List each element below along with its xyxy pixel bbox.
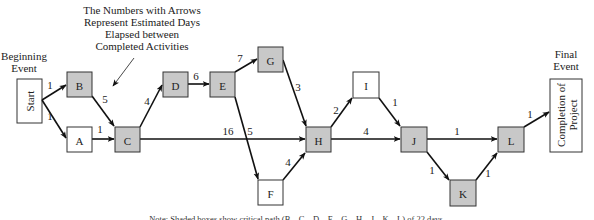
activity-label: F bbox=[267, 188, 273, 200]
start-label: Start bbox=[24, 91, 36, 112]
edge-days-label: 6 bbox=[193, 70, 199, 82]
activity-label: L bbox=[508, 135, 515, 147]
node-b: B bbox=[67, 72, 92, 97]
final-event: Final Event Completion of Project bbox=[550, 48, 582, 152]
annotation-line-3: Elapsed between bbox=[105, 28, 180, 40]
edge-b-to-c: 5 bbox=[92, 93, 114, 126]
activity-label: C bbox=[124, 135, 131, 147]
edge-start-to-a: 1 bbox=[42, 100, 66, 138]
edge-days-label: 1 bbox=[527, 108, 533, 120]
edge-days-label: 2 bbox=[333, 104, 339, 116]
activity-label: J bbox=[412, 135, 417, 147]
edge-c-to-h: 16 bbox=[140, 125, 305, 139]
critical-path-note: Note: Shaded boxes show critical path (B… bbox=[149, 214, 445, 220]
arrow-line bbox=[42, 100, 66, 138]
edge-days-label: 7 bbox=[237, 52, 243, 64]
edge-days-label: 3 bbox=[295, 81, 301, 93]
edge-c-to-d: 4 bbox=[140, 85, 162, 127]
edge-j-to-l: 1 bbox=[427, 125, 497, 139]
edge-f-to-h: 4 bbox=[283, 153, 305, 180]
node-c: C bbox=[115, 127, 140, 152]
edge-a-to-c: 1 bbox=[92, 123, 114, 139]
node-g: G bbox=[258, 47, 283, 72]
edge-h-to-j: 4 bbox=[331, 125, 400, 139]
activity-label: H bbox=[315, 135, 323, 147]
edge-days-label: 4 bbox=[363, 125, 369, 137]
arrow-line bbox=[235, 97, 258, 179]
annotation-line-2: Represent Estimated Days bbox=[84, 16, 200, 28]
edge-start-to-b: 1 bbox=[42, 79, 66, 100]
node-j: J bbox=[401, 127, 427, 152]
node-e: E bbox=[210, 72, 235, 97]
edge-e-to-f: 5 bbox=[235, 97, 258, 179]
edge-days-label: 1 bbox=[47, 110, 53, 122]
completion-label-2: Project bbox=[567, 99, 579, 130]
activity-label: B bbox=[76, 80, 83, 92]
activity-label: K bbox=[459, 188, 467, 200]
edge-days-label: 1 bbox=[429, 164, 435, 176]
node-d: D bbox=[163, 72, 188, 97]
edge-i-to-j: 1 bbox=[379, 96, 400, 126]
edge-days-label: 1 bbox=[485, 167, 491, 179]
activity-label: D bbox=[172, 80, 180, 92]
annotation-pointer-arrow bbox=[113, 58, 134, 86]
node-l: L bbox=[498, 127, 524, 152]
edge-g-to-h: 3 bbox=[283, 60, 306, 126]
edge-l-to-end: 1 bbox=[524, 108, 549, 127]
edge-k-to-l: 1 bbox=[476, 153, 497, 180]
activity-label: E bbox=[219, 80, 226, 92]
edge-d-to-e: 6 bbox=[188, 70, 209, 84]
annotation-line-4: Completed Activities bbox=[95, 40, 188, 52]
annotation-text: The Numbers with Arrows Represent Estima… bbox=[83, 4, 201, 52]
node-k: K bbox=[450, 180, 476, 206]
completion-label-1: Completion of bbox=[555, 83, 567, 147]
edge-days-label: 1 bbox=[454, 125, 460, 137]
arrow-line bbox=[283, 60, 306, 126]
edge-days-label: 4 bbox=[285, 156, 291, 168]
activity-label: I bbox=[364, 80, 368, 92]
node-h: H bbox=[306, 127, 331, 152]
activity-label: A bbox=[76, 135, 84, 147]
node-i: I bbox=[353, 72, 379, 98]
edge-days-label: 16 bbox=[223, 125, 235, 137]
edge-days-label: 5 bbox=[102, 93, 108, 105]
edge-days-label: 4 bbox=[144, 95, 150, 107]
edge-days-label: 1 bbox=[97, 123, 103, 135]
final-event-title-1: Final bbox=[555, 48, 578, 60]
node-a: A bbox=[67, 127, 92, 152]
edge-e-to-g: 7 bbox=[235, 52, 257, 72]
beginning-event-title-2: Event bbox=[11, 62, 37, 74]
node-f: F bbox=[258, 180, 283, 205]
edge-j-to-k: 1 bbox=[427, 152, 449, 180]
edge-days-label: 1 bbox=[47, 79, 53, 91]
edge-h-to-i: 2 bbox=[331, 98, 352, 127]
edge-days-label: 1 bbox=[392, 96, 398, 108]
pert-network-diagram: The Numbers with Arrows Represent Estima… bbox=[0, 0, 594, 220]
arrow-line bbox=[42, 85, 66, 100]
annotation-line-1: The Numbers with Arrows bbox=[83, 4, 201, 16]
final-event-title-2: Event bbox=[553, 60, 579, 72]
beginning-event-title-1: Beginning bbox=[1, 50, 47, 62]
edge-days-label: 5 bbox=[247, 125, 253, 137]
activity-label: G bbox=[267, 55, 275, 67]
beginning-event: Beginning Event Start bbox=[1, 50, 47, 123]
edges-group: 1151416675342411111 bbox=[42, 52, 549, 180]
